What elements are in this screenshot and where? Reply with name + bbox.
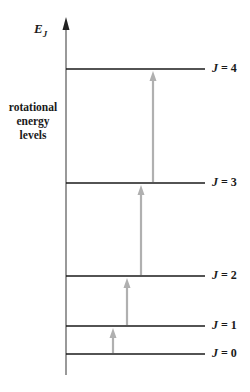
arrowhead-icon	[110, 328, 117, 338]
level-label-j4: J = 4	[212, 61, 237, 76]
level-value: = 3	[218, 175, 237, 189]
transition-arrow-2-3	[138, 185, 145, 275]
side-label-line: levels	[4, 128, 62, 142]
level-label-j3: J = 3	[212, 175, 237, 190]
side-label: rotational energy levels	[4, 100, 62, 142]
level-label-j0: J = 0	[212, 346, 237, 361]
energy-level-diagram	[0, 0, 250, 392]
level-value: = 1	[218, 318, 237, 332]
level-value: = 0	[218, 346, 237, 360]
arrowhead-icon	[138, 185, 145, 195]
level-value: = 2	[218, 268, 237, 282]
axis-title-main: E	[34, 21, 43, 36]
axis-title: EJ	[34, 21, 47, 39]
level-value: = 4	[218, 61, 237, 75]
arrowhead-icon	[124, 278, 131, 288]
level-label-j1: J = 1	[212, 318, 237, 333]
side-label-line: energy	[4, 114, 62, 128]
transition-arrow-3-4	[150, 71, 157, 182]
transition-arrow-0-1	[110, 328, 117, 353]
arrowhead-icon	[150, 71, 157, 81]
level-label-j2: J = 2	[212, 268, 237, 283]
side-label-line: rotational	[4, 100, 62, 114]
axis-title-subscript: J	[43, 29, 48, 39]
axis-arrowhead-icon	[63, 17, 70, 30]
transition-arrow-1-2	[124, 278, 131, 325]
